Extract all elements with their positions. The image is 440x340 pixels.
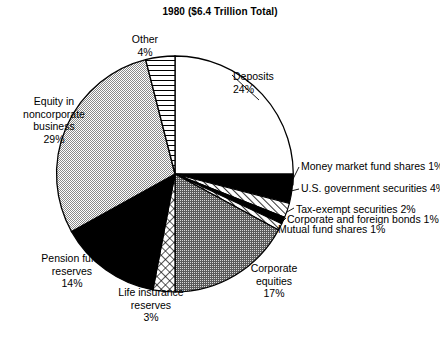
slice-label-us-government-securities: U.S. government securities 4% bbox=[301, 182, 440, 195]
pie-chart-figure: 1980 ($6.4 Trillion Total) bbox=[0, 0, 440, 340]
slice-label-equity-in-noncorporate-business: Equity in noncorporate business 29% bbox=[8, 95, 100, 145]
slice-label-corporate-equities: Corporate equities 17% bbox=[236, 262, 312, 300]
slice-label-money-market-fund-shares: Money market fund shares 1% bbox=[301, 160, 440, 173]
slice-label-life-insurance-reserves: Life insurance reserves 3% bbox=[104, 286, 198, 324]
slice-label-deposits: Deposits 24% bbox=[233, 70, 317, 95]
leader-line-money-market bbox=[293, 167, 299, 179]
slice-label-mutual-fund-shares: Mutual fund shares 1% bbox=[278, 223, 440, 236]
slice-label-other: Other 4% bbox=[108, 33, 182, 58]
slice-label-pension-fund-reserves: Pension fund reserves 14% bbox=[26, 252, 118, 290]
